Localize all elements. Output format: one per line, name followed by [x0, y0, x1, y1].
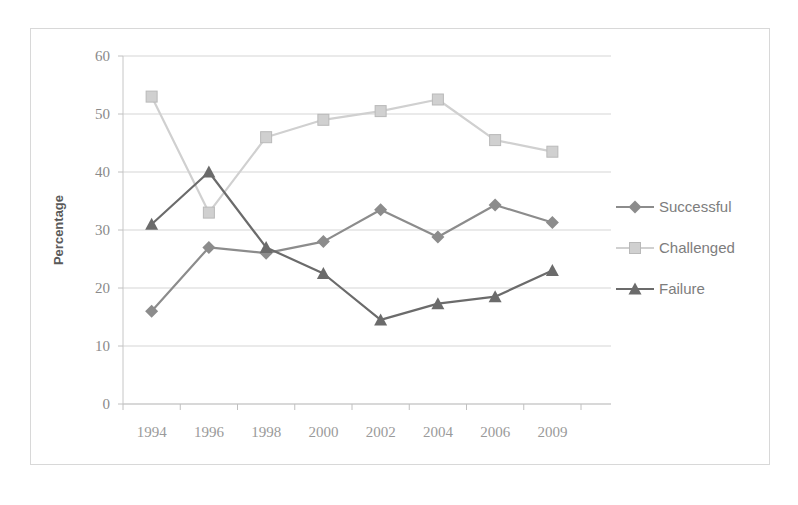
data-point-marker-square — [261, 132, 272, 143]
legend-item-challenged[interactable]: Challenged — [616, 239, 735, 256]
data-point-marker-diamond — [317, 235, 330, 248]
x-tick-label: 2009 — [537, 424, 567, 440]
data-point-marker-square — [318, 114, 329, 125]
data-point-marker-diamond — [489, 199, 502, 212]
x-axis-tick-labels: 19941996199820002002200420062009 — [137, 424, 568, 440]
data-point-marker-triangle — [546, 264, 559, 276]
series-challenged — [146, 91, 558, 218]
x-tick-label: 1994 — [137, 424, 168, 440]
data-point-marker-diamond — [546, 216, 559, 229]
chart-legend: SuccessfulChallengedFailure — [616, 198, 735, 297]
x-tick-label: 2006 — [480, 424, 511, 440]
legend-label: Failure — [659, 280, 705, 297]
data-point-marker-square — [203, 207, 214, 218]
y-tick-label: 30 — [95, 222, 110, 238]
axis-lines — [118, 56, 611, 410]
data-series — [145, 91, 559, 325]
y-tick-label: 0 — [103, 396, 111, 412]
data-point-marker-square — [146, 91, 157, 102]
legend-item-failure[interactable]: Failure — [616, 280, 705, 297]
data-point-marker-diamond — [629, 201, 642, 214]
data-point-marker-triangle — [317, 267, 330, 279]
y-axis-title: Percentage — [51, 195, 66, 265]
data-point-marker-square — [432, 94, 443, 105]
series-line — [152, 205, 553, 311]
y-axis-tick-labels: 0102030405060 — [95, 48, 110, 412]
y-tick-label: 50 — [95, 106, 110, 122]
x-tick-label: 2000 — [308, 424, 338, 440]
gridlines — [123, 56, 611, 404]
legend-label: Successful — [659, 198, 732, 215]
x-tick-label: 1996 — [194, 424, 225, 440]
data-point-marker-square — [375, 106, 386, 117]
legend-item-successful[interactable]: Successful — [616, 198, 732, 215]
data-point-marker-square — [490, 135, 501, 146]
data-point-marker-diamond — [374, 203, 387, 216]
data-point-marker-square — [547, 146, 558, 157]
legend-label: Challenged — [659, 239, 735, 256]
data-point-marker-square — [630, 243, 641, 254]
x-tick-label: 2002 — [366, 424, 396, 440]
data-point-marker-diamond — [431, 230, 444, 243]
x-tick-label: 1998 — [251, 424, 281, 440]
y-tick-label: 60 — [95, 48, 110, 64]
x-tick-label: 2004 — [423, 424, 454, 440]
line-chart: 0102030405060 19941996199820002002200420… — [31, 29, 769, 464]
y-tick-label: 40 — [95, 164, 110, 180]
y-tick-label: 10 — [95, 338, 110, 354]
chart-frame: 0102030405060 19941996199820002002200420… — [30, 28, 770, 465]
y-tick-label: 20 — [95, 280, 110, 296]
